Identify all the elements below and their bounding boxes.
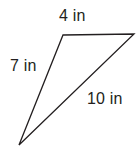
top-edge-length-label: 4 in xyxy=(59,7,86,25)
geometry-figure: 4 in 7 in 10 in xyxy=(0,0,140,150)
left-edge-length-label: 7 in xyxy=(10,57,37,75)
hypotenuse-edge-length-label: 10 in xyxy=(87,90,123,108)
